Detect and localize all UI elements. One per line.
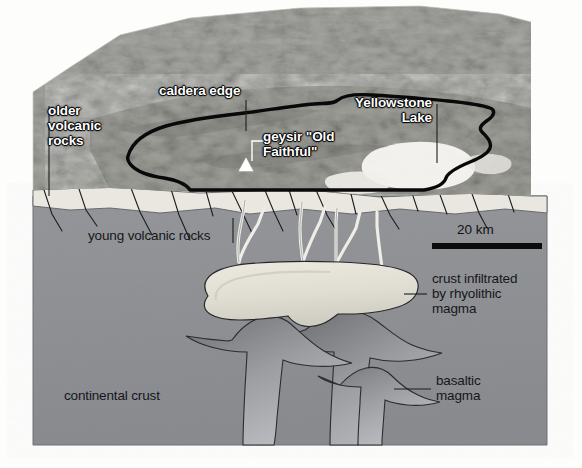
- label-caldera-edge: caldera edge: [159, 83, 240, 98]
- yellowstone-caldera-diagram: older volcanic rocks caldera edge Yellow…: [0, 0, 582, 468]
- label-basaltic-magma: basaltic magma: [436, 373, 481, 403]
- label-young-volcanic-rocks: young volcanic rocks: [88, 228, 210, 243]
- label-older-volcanic-rocks: older volcanic rocks: [48, 103, 101, 148]
- label-scale-bar: 20 km: [457, 222, 494, 237]
- label-geysir-old-faithful: geysir "Old Faithful": [263, 129, 334, 159]
- scale-bar: [432, 243, 542, 249]
- label-crust-infiltrated-rhyolithic-magma: crust infiltrated by rhyolithic magma: [432, 271, 517, 316]
- label-yellowstone-lake: Yellowstone Lake: [332, 95, 432, 125]
- label-continental-crust: continental crust: [64, 388, 160, 403]
